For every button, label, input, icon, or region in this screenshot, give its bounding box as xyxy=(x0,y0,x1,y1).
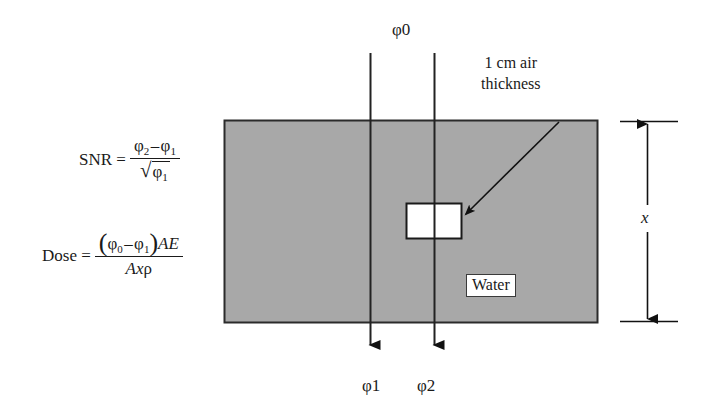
equation-snr: SNR = φ2 – φ1 √φ1 xyxy=(79,136,180,185)
label-air-thickness: 1 cm air thickness xyxy=(481,52,541,94)
figure-canvas: φ0 φ1 φ2 Water 1 cm air thickness x SNR … xyxy=(0,0,703,420)
equation-snr-denominator: √φ1 xyxy=(136,159,174,184)
label-air-line2: thickness xyxy=(481,73,541,94)
equation-dose-fraction: (φ0 – φ1)AE Axρ xyxy=(95,232,183,279)
label-thickness-x: x xyxy=(641,208,649,227)
equation-dose: Dose = (φ0 – φ1)AE Axρ xyxy=(42,232,183,279)
equation-snr-lhs: SNR = xyxy=(79,150,130,170)
equation-dose-denominator: Axρ xyxy=(122,257,156,279)
equation-snr-fraction: φ2 – φ1 √φ1 xyxy=(130,136,180,185)
equation-snr-sqrt: √φ1 xyxy=(140,161,170,184)
label-phi1: φ1 xyxy=(362,376,380,395)
label-water: Water xyxy=(466,274,516,297)
diagram-svg xyxy=(0,0,703,420)
label-phi0: φ0 xyxy=(392,20,410,39)
equation-dose-numerator: (φ0 – φ1)AE xyxy=(95,232,183,256)
equation-dose-lhs: Dose = xyxy=(42,246,95,266)
equation-snr-numerator: φ2 – φ1 xyxy=(130,136,180,158)
label-air-line1: 1 cm air xyxy=(481,52,541,73)
label-phi2: φ2 xyxy=(417,376,435,395)
